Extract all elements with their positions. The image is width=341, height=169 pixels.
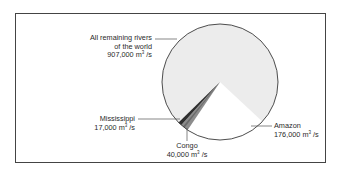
label-amazon: Amazon 176,000 m3 /s	[274, 122, 319, 139]
label-mississippi: Mississippi 17,000 m3 /s	[94, 115, 135, 132]
label-congo: Congo 40,000 m3 /s	[147, 142, 227, 159]
label-remaining: All remaining rivers of the world 907,00…	[90, 34, 152, 60]
